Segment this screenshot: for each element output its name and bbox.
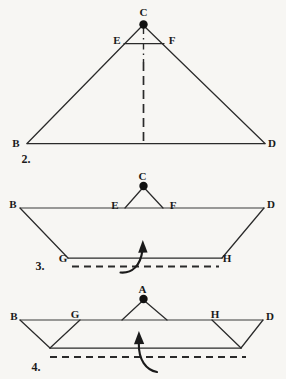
- edge-b-fold-step4: [20, 320, 50, 348]
- label-d-step2: D: [268, 137, 276, 149]
- step-label-4: 4.: [32, 360, 41, 374]
- diagram-page: C B D E F 2.: [0, 0, 286, 379]
- label-f-step3: F: [170, 199, 177, 211]
- label-f-step2: F: [169, 34, 176, 46]
- vertex-dot-c: [139, 20, 147, 28]
- edge-h-fold-step4: [212, 320, 241, 348]
- label-c-step2: C: [140, 6, 148, 18]
- label-g-step4: G: [71, 308, 80, 320]
- label-d-step3: D: [267, 198, 275, 210]
- edge-fold-g-step4: [50, 320, 80, 348]
- label-b-step3: B: [9, 198, 17, 210]
- edge-e-c-step3: [125, 187, 144, 208]
- label-a-step4: A: [139, 283, 147, 295]
- vertex-dot-c-step3: [139, 182, 147, 190]
- fold-arrow-head-step3: [138, 240, 147, 253]
- label-h-step3: H: [223, 252, 232, 264]
- label-e-step2: E: [113, 34, 120, 46]
- edge-right-a-step4: [144, 300, 168, 320]
- edge-d-h: [222, 208, 264, 258]
- step-3-figure: C B D E F G H 3.: [9, 170, 275, 273]
- edge-left-a-step4: [122, 300, 144, 320]
- edge-c-f-step3: [144, 187, 164, 208]
- paper-folding-diagram: C B D E F 2.: [0, 0, 286, 379]
- edge-fold-d-step4: [241, 320, 263, 348]
- step-4-figure: A B G H D 4.: [10, 283, 274, 374]
- step-label-2: 2.: [22, 152, 31, 166]
- vertex-dot-a-step4: [139, 295, 147, 303]
- step-2-figure: C B D E F 2.: [12, 6, 276, 166]
- label-d-step4: D: [266, 310, 274, 322]
- fold-arrow-curve-step3: [121, 250, 143, 273]
- fold-arrow-head-step4: [134, 331, 144, 344]
- label-h-step4: H: [211, 308, 220, 320]
- label-g-step3: G: [59, 252, 68, 264]
- step-label-3: 3.: [36, 259, 45, 273]
- label-c-step3: C: [139, 170, 147, 182]
- edge-b-g: [20, 208, 68, 258]
- label-b-step2: B: [12, 137, 20, 149]
- edge-b-c: [27, 25, 143, 144]
- edge-c-d: [143, 25, 265, 144]
- label-b-step4: B: [10, 310, 18, 322]
- label-e-step3: E: [111, 199, 118, 211]
